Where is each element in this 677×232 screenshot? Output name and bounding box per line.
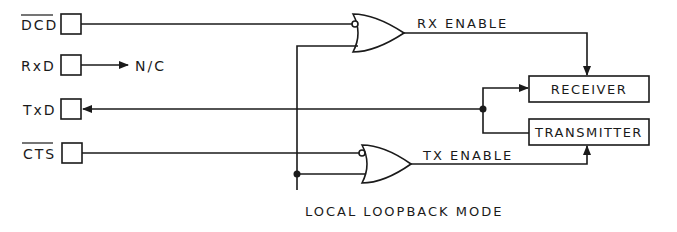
wire-loopback [297, 46, 358, 190]
pin-label-dcd: DCD [21, 17, 58, 33]
rx-or-gate [353, 14, 404, 52]
wire-rx-enable [404, 33, 587, 75]
tx-enable-label: TX ENABLE [422, 148, 513, 163]
local-loopback-label: LOCAL LOOPBACK MODE [305, 204, 503, 219]
transmitter-label: TRANSMITTER [534, 125, 643, 140]
tx-or-gate [362, 145, 411, 183]
pin-label-rxd: RxD [21, 58, 56, 74]
nc-label: N/C [135, 58, 166, 74]
pin-box-rxd [61, 55, 81, 75]
wire-to-receiver [483, 88, 528, 109]
receiver-label: RECEIVER [551, 82, 628, 97]
wire-from-transmitter [483, 109, 529, 133]
rx-enable-label: RX ENABLE [417, 16, 508, 31]
loopback-diagram: DCD RxD TxD CTS N/C RX ENABLE TX ENABLE … [0, 0, 677, 232]
pin-label-cts: CTS [23, 146, 56, 162]
pin-box-cts [62, 143, 82, 163]
tx-gate-bubble [359, 150, 365, 156]
rx-gate-bubble [352, 21, 358, 27]
junction-dot-loopback [294, 171, 301, 178]
pin-box-dcd [61, 14, 81, 34]
pin-label-txd: TxD [22, 102, 57, 118]
junction-dot-txd [480, 106, 487, 113]
pin-box-txd [61, 99, 81, 119]
